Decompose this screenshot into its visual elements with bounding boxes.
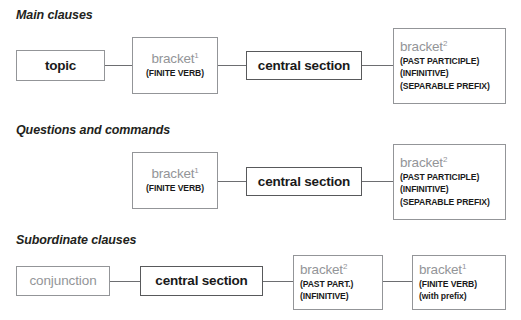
box-label-superscript: 2 — [443, 39, 447, 48]
box-content: bracket1 (FINITE VERB) — [133, 167, 217, 194]
connector-row3-bracket2-to-bracket1 — [383, 281, 412, 282]
box-qualifier-1: (INFINITIVE) — [300, 290, 376, 302]
box-qualifier-0: (FINITE VERB) — [140, 67, 210, 79]
box-content: central section — [141, 274, 262, 288]
connector-row1-topic-to-bracket1 — [105, 65, 132, 66]
box-label-superscript: 2 — [343, 261, 347, 270]
box-content: central section — [247, 59, 361, 73]
section-heading-subordinate-clauses: Subordinate clauses — [16, 233, 136, 247]
box-label: bracket2 — [400, 156, 499, 170]
box-label: bracket2 — [400, 40, 499, 54]
box-label-superscript: 1 — [194, 50, 198, 59]
box-main-clauses-central-section[interactable]: central section — [246, 51, 362, 80]
box-label: topic — [24, 59, 97, 73]
box-questions-central-section[interactable]: central section — [246, 167, 362, 196]
box-label-superscript: 1 — [194, 165, 198, 174]
box-content: bracket2 (PAST PARTICIPLE) (INFINITIVE) … — [394, 156, 505, 208]
box-questions-bracket2[interactable]: bracket2 (PAST PARTICIPLE) (INFINITIVE) … — [393, 144, 506, 220]
box-label-text: bracket — [151, 166, 194, 181]
box-qualifier-0: (FINITE VERB) — [419, 278, 499, 290]
connector-row3-central-to-bracket2 — [263, 281, 293, 282]
diagram-canvas: Main clauses topic bracket1 (FINITE VERB… — [0, 0, 521, 320]
box-subordinate-bracket2[interactable]: bracket2 (PAST PART.) (INFINITIVE) — [293, 255, 383, 310]
box-label-text: bracket — [419, 262, 462, 277]
box-label-superscript: 1 — [462, 261, 466, 270]
box-qualifier-1: (with prefix) — [419, 290, 499, 302]
box-label-superscript: 2 — [443, 155, 447, 164]
box-label-text: bracket — [300, 262, 343, 277]
box-label: bracket1 — [140, 167, 210, 181]
box-subordinate-bracket1[interactable]: bracket1 (FINITE VERB) (with prefix) — [412, 255, 506, 310]
connector-row2-central-to-bracket2 — [362, 181, 393, 182]
box-label-text: bracket — [400, 39, 443, 54]
box-qualifier-2: (SEPARABLE PREFIX) — [400, 196, 499, 208]
box-label: bracket2 — [300, 263, 376, 277]
box-label: bracket1 — [419, 263, 499, 277]
box-main-clauses-bracket2[interactable]: bracket2 (PAST PARTICIPLE) (INFINITIVE) … — [393, 28, 506, 104]
box-label-text: bracket — [151, 51, 194, 66]
box-subordinate-central-section[interactable]: central section — [140, 266, 263, 296]
connector-row2-bracket1-to-central — [218, 181, 246, 182]
box-qualifier-0: (PAST PARTICIPLE) — [400, 171, 499, 183]
box-content: bracket1 (FINITE VERB) — [133, 52, 217, 79]
box-qualifier-0: (FINITE VERB) — [140, 182, 210, 194]
box-content: bracket2 (PAST PARTICIPLE) (INFINITIVE) … — [394, 40, 505, 92]
box-content: central section — [247, 175, 361, 189]
box-qualifier-0: (PAST PART.) — [300, 278, 376, 290]
box-content: topic — [17, 59, 104, 73]
section-heading-questions-and-commands: Questions and commands — [16, 123, 170, 137]
box-main-clauses-topic[interactable]: topic — [16, 50, 105, 81]
box-qualifier-1: (INFINITIVE) — [400, 183, 499, 195]
section-heading-main-clauses: Main clauses — [16, 8, 93, 22]
box-content: bracket1 (FINITE VERB) (with prefix) — [413, 263, 505, 303]
connector-row3-conjunction-to-central — [110, 281, 140, 282]
box-label: central section — [254, 59, 354, 73]
box-label: conjunction — [24, 274, 102, 288]
box-content: conjunction — [17, 274, 109, 288]
box-main-clauses-bracket1[interactable]: bracket1 (FINITE VERB) — [132, 37, 218, 94]
box-qualifier-2: (SEPARABLE PREFIX) — [400, 80, 499, 92]
box-content: bracket2 (PAST PART.) (INFINITIVE) — [294, 263, 382, 303]
box-questions-bracket1[interactable]: bracket1 (FINITE VERB) — [132, 152, 218, 209]
box-label: central section — [148, 274, 255, 288]
box-label: central section — [254, 175, 354, 189]
box-qualifier-0: (PAST PARTICIPLE) — [400, 55, 499, 67]
box-label-text: bracket — [400, 155, 443, 170]
connector-row1-central-to-bracket2 — [362, 65, 393, 66]
connector-row1-bracket1-to-central — [218, 65, 246, 66]
box-qualifier-1: (INFINITIVE) — [400, 67, 499, 79]
box-label: bracket1 — [140, 52, 210, 66]
box-subordinate-conjunction[interactable]: conjunction — [16, 266, 110, 296]
